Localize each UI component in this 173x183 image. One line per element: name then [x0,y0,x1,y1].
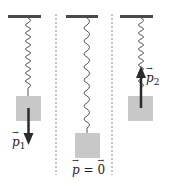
spring-coil [26,18,31,96]
label-p1: p1 [12,136,25,151]
vector-symbol: p [72,164,80,176]
vector-symbol: p [12,136,20,148]
panel-middle [66,15,100,158]
mass-block [75,133,100,158]
label-p2: p2 [146,72,159,87]
arrow-up-icon [136,66,146,78]
panel-left [8,15,41,145]
ceiling-bar [120,15,153,18]
ceiling-bar [66,15,98,18]
ceiling-bar [8,15,41,18]
diagram-canvas [0,0,173,183]
spring-coil [84,18,90,133]
vector-symbol: p [146,72,154,84]
label-p-zero: p = 0 [72,164,105,176]
